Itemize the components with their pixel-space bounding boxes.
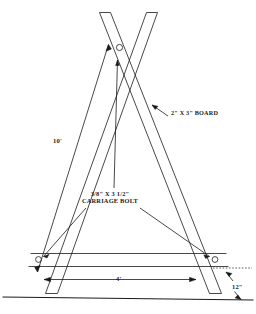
ground-line	[3, 297, 254, 300]
teepee-frame-drawing	[0, 0, 256, 314]
carriage-bolt-label: 3/8" X 3 1/2" CARRIAGE BOLT	[74, 190, 146, 204]
brace-span-label: 4'	[116, 275, 121, 282]
leg-extension-label: 12"	[232, 283, 243, 290]
carriage-bolt-label-line1: 3/8" X 3 1/2"	[74, 190, 146, 197]
right-2x3-board	[100, 13, 222, 294]
left-2x3-board	[46, 13, 158, 294]
right-brace-carriage-bolt	[212, 257, 218, 263]
leg-length-label: 10'	[53, 137, 62, 144]
crossing-carriage-bolt	[116, 44, 122, 50]
diagram-page: 2" X 3" BOARD 10' 3/8" X 3 1/2" CARRIAGE…	[0, 0, 256, 314]
board-label: 2" X 3" BOARD	[171, 110, 218, 117]
carriage-bolt-label-line2: CARRIAGE BOLT	[74, 197, 146, 204]
dimension-leg-length	[35, 45, 112, 273]
leader-to-crossing-bolt	[114, 60, 119, 188]
leader-to-right-bolt	[140, 208, 210, 258]
leader-to-board-label	[152, 105, 168, 116]
